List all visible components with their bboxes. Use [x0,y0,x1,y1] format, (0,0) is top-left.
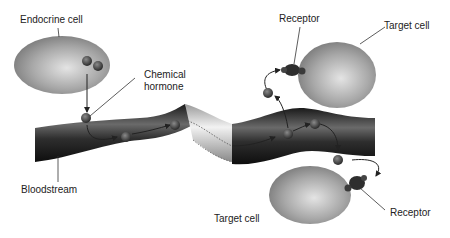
label-receptor-bottom: Receptor [390,207,431,219]
label-target-cell-bottom: Target cell [214,213,260,225]
target-cell-top [281,42,376,108]
hormone-molecule-icon [93,61,103,71]
label-bloodstream: Bloodstream [21,184,77,196]
endocrine-diagram [0,0,450,238]
endocrine-cell-leader [58,28,59,37]
label-chemical-hormone-1: Chemical [144,69,186,81]
bloodstream-vessel-cutaway [185,104,232,162]
label-receptor-top: Receptor [279,13,320,25]
label-chemical-hormone-2: hormone [144,81,183,93]
receptor-bottom-icon [345,175,368,192]
bloodstream-vessel-right [232,108,375,164]
endocrine-cell [14,36,110,94]
target-cell-bottom [269,166,367,224]
bloodstream-vessel-left [35,104,193,162]
label-endocrine-cell: Endocrine cell [20,14,83,26]
hormone-molecule-icon [82,56,92,66]
label-target-cell-top: Target cell [384,20,430,32]
